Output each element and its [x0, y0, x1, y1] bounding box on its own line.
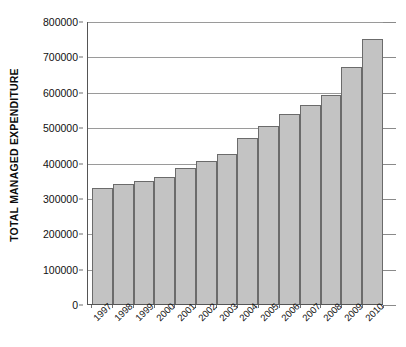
x-axis-tick-cell: 1999	[133, 306, 154, 347]
bar[interactable]	[258, 126, 279, 304]
y-axis-tick-label: 100000	[43, 264, 78, 276]
y-axis-tick-mark	[79, 269, 83, 270]
x-axis-tick-cell: 2001	[174, 306, 195, 347]
x-axis-tick-cell: 2005	[258, 306, 279, 347]
x-axis-tick-cell: 2010	[362, 306, 383, 347]
bars-container	[88, 22, 383, 304]
y-axis-tick-mark	[79, 22, 83, 23]
bar[interactable]	[196, 161, 217, 304]
bar[interactable]	[134, 181, 155, 304]
x-axis-tick-cell: 2006	[279, 306, 300, 347]
right-axis-tick-mark	[383, 234, 396, 235]
right-axis-tick-mark	[383, 22, 396, 23]
y-axis-tick-mark	[79, 57, 83, 58]
bar[interactable]	[217, 154, 238, 304]
bar[interactable]	[300, 105, 321, 304]
bar[interactable]	[154, 177, 175, 304]
plot-area	[87, 22, 383, 305]
y-axis-title-text: TOTAL MANAGED EXPENDITURE	[8, 68, 20, 242]
y-axis-tick-mark	[79, 305, 83, 306]
y-axis-tick-mark	[79, 234, 83, 235]
y-axis-tick-label: 800000	[43, 16, 78, 28]
x-axis-tick-cell: 2003	[216, 306, 237, 347]
bar[interactable]	[341, 67, 362, 304]
x-axis-tick-cell: 2004	[237, 306, 258, 347]
x-axis-tick-cell: 1997	[91, 306, 112, 347]
x-axis-tick-cell: 2000	[154, 306, 175, 347]
bar[interactable]	[321, 95, 342, 304]
right-axis-tick-mark	[383, 305, 396, 306]
right-axis-tick-mark	[383, 128, 396, 129]
y-axis-tick-mark	[79, 92, 83, 93]
bar[interactable]	[113, 184, 134, 304]
right-axis-tick-mark	[383, 57, 396, 58]
x-axis-tick-cell: 2009	[341, 306, 362, 347]
right-axis-tick-mark	[383, 164, 396, 165]
right-axis-tick-mark	[383, 199, 396, 200]
x-axis-tick-cell: 2007	[300, 306, 321, 347]
x-axis-tick-labels: 1997199819992000200120022003200420052006…	[87, 306, 383, 347]
y-axis-tick-mark	[79, 128, 83, 129]
right-axis-tick-mark	[383, 270, 396, 271]
y-axis-tick-label: 500000	[43, 122, 78, 134]
bar[interactable]	[175, 168, 196, 304]
y-axis-tick-label: 400000	[43, 158, 78, 170]
bar[interactable]	[237, 138, 258, 304]
y-axis-tick-label: 700000	[43, 51, 78, 63]
right-axis-tick-mark	[383, 93, 396, 94]
bar[interactable]	[279, 114, 300, 304]
x-axis-tick-cell: 1998	[112, 306, 133, 347]
bar[interactable]	[92, 188, 113, 304]
x-axis-tick-cell: 2002	[195, 306, 216, 347]
bar[interactable]	[362, 39, 383, 304]
x-axis-tick-cell: 2008	[320, 306, 341, 347]
bar-chart-figure: TOTAL MANAGED EXPENDITURE 01000002000003…	[0, 0, 406, 347]
y-axis-tick-mark	[79, 198, 83, 199]
y-axis-tick-labels: 0100000200000300000400000500000600000700…	[24, 22, 83, 305]
y-axis-tick-label: 200000	[43, 228, 78, 240]
y-axis-tick-mark	[79, 163, 83, 164]
y-axis-tick-label: 300000	[43, 193, 78, 205]
y-axis-tick-label: 600000	[43, 87, 78, 99]
right-axis-ticks	[383, 22, 397, 305]
y-axis-tick-label: 0	[72, 299, 78, 311]
